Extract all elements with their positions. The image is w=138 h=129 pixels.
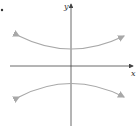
x-axis-label: x [131, 69, 136, 78]
lower-branch [19, 84, 124, 98]
y-axis-label: y [63, 2, 69, 11]
plot: x y [0, 0, 138, 129]
bullet-marker [1, 9, 3, 11]
upper-branch [19, 36, 124, 49]
hyperbola-diagram: x y [0, 0, 138, 129]
